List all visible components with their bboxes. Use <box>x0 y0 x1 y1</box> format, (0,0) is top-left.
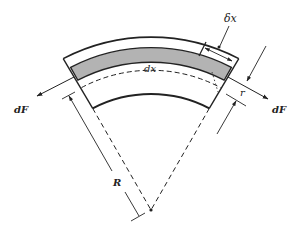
r-extension-top <box>247 46 266 81</box>
label-delta-x: δx <box>224 12 238 25</box>
label-dx: dx <box>144 63 156 74</box>
delta-x-leader-dot <box>218 46 221 49</box>
R-dimension-upper <box>69 96 112 171</box>
r-extension-bottom <box>217 101 236 134</box>
left-radius-dashed <box>93 108 151 210</box>
label-force-right: dF <box>272 104 287 115</box>
force-arrow-right <box>228 77 268 99</box>
label-R: R <box>112 177 121 188</box>
label-r: r <box>240 87 246 98</box>
delta-x-leader <box>219 26 229 48</box>
curved-beam-diagram: δx dx dF dF r R <box>0 0 300 232</box>
right-radius-dashed <box>151 108 209 210</box>
label-force-left: dF <box>14 104 29 115</box>
R-tick-top <box>62 92 75 99</box>
inner-arc <box>93 94 210 108</box>
R-dimension-lower <box>125 192 139 216</box>
center-point <box>149 208 152 211</box>
force-arrow-left <box>37 77 74 96</box>
